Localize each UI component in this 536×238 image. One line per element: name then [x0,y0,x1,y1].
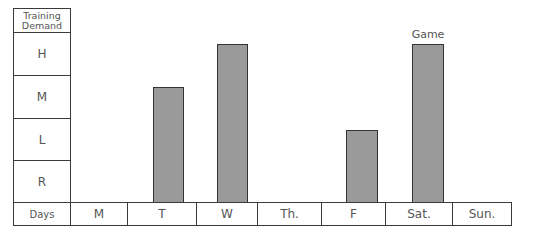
day-sunday: Sun. [452,202,512,226]
y-level-high: H [13,32,71,76]
y-level-rest: R [13,160,71,203]
bar-wednesday [217,44,248,203]
day-thursday: Th. [257,202,322,226]
day-friday: F [321,202,386,226]
day-monday: M [70,202,128,226]
game-annotation: Game [402,28,454,41]
y-level-medium: M [13,75,71,119]
y-axis-title-line2: Demand [22,21,62,31]
bar-saturday [412,44,444,203]
bar-friday [346,130,378,203]
y-axis-title: Training Demand [13,8,71,33]
day-wednesday: W [196,202,258,226]
day-saturday: Sat. [385,202,453,226]
y-axis-title-line1: Training [23,11,61,21]
y-level-low: L [13,118,71,161]
bar-tuesday [153,87,184,203]
x-axis-header: Days [13,202,71,226]
day-tuesday: T [127,202,197,226]
